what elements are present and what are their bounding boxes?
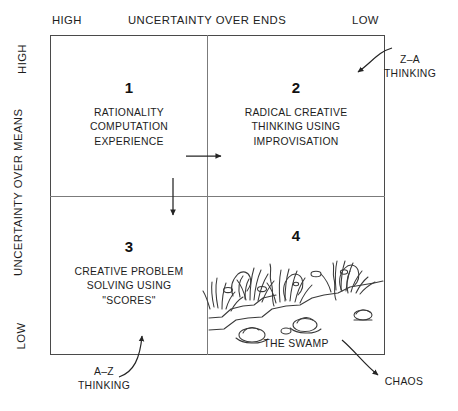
callout-za-line-1: Z–A (384, 53, 436, 67)
callout-chaos: CHAOS (385, 375, 423, 389)
quadrant-3: 3 CREATIVE PROBLEM SOLVING USING "SCORES… (54, 239, 204, 309)
axis-top-high-label: HIGH (52, 14, 82, 26)
axis-left-low-label: LOW (15, 316, 27, 356)
quadrant-3-text: CREATIVE PROBLEM SOLVING USING "SCORES" (54, 265, 204, 309)
quadrant-3-line-1: CREATIVE PROBLEM (54, 265, 204, 280)
axis-left-title: UNCERTAINTY OVER MEANS (12, 126, 24, 276)
callout-za-thinking: Z–A THINKING (384, 53, 436, 80)
matrix-horizontal-divider (50, 196, 385, 197)
axis-top-title: UNCERTAINTY OVER ENDS (128, 14, 286, 26)
callout-az-line-2: THINKING (78, 379, 130, 393)
quadrant-4-number: 4 (211, 228, 381, 245)
quadrant-3-line-3: "SCORES" (54, 294, 204, 309)
quadrant-1-number: 1 (54, 80, 204, 97)
quadrant-3-number: 3 (54, 239, 204, 256)
quadrant-1-line-3: EXPERIENCE (54, 135, 204, 150)
quadrant-1-line-2: COMPUTATION (54, 120, 204, 135)
quadrant-1-line-1: RATIONALITY (54, 106, 204, 121)
callout-az-line-1: A–Z (78, 365, 130, 379)
callout-az-thinking: A–Z THINKING (78, 365, 130, 392)
quadrant-2: 2 RADICAL CREATIVE THINKING USING IMPROV… (211, 80, 381, 150)
axis-top-low-label: LOW (352, 14, 379, 26)
quadrant-4-caption: THE SWAMP (211, 338, 381, 349)
diagram-canvas: UNCERTAINTY OVER ENDS HIGH LOW UNCERTAIN… (0, 0, 458, 411)
callout-chaos-label: CHAOS (385, 375, 423, 389)
quadrant-2-text: RADICAL CREATIVE THINKING USING IMPROVIS… (211, 106, 381, 150)
quadrant-3-line-2: SOLVING USING (54, 279, 204, 294)
callout-za-line-2: THINKING (384, 67, 436, 81)
quadrant-2-line-2: THINKING USING (211, 120, 381, 135)
quadrant-1: 1 RATIONALITY COMPUTATION EXPERIENCE (54, 80, 204, 150)
quadrant-4: 4 (211, 228, 381, 245)
quadrant-2-number: 2 (211, 80, 381, 97)
quadrant-2-line-1: RADICAL CREATIVE (211, 106, 381, 121)
matrix-vertical-divider (207, 35, 208, 355)
axis-left-high-label: HIGH (16, 39, 28, 79)
quadrant-2-line-3: IMPROVISATION (211, 135, 381, 150)
quadrant-1-text: RATIONALITY COMPUTATION EXPERIENCE (54, 106, 204, 150)
